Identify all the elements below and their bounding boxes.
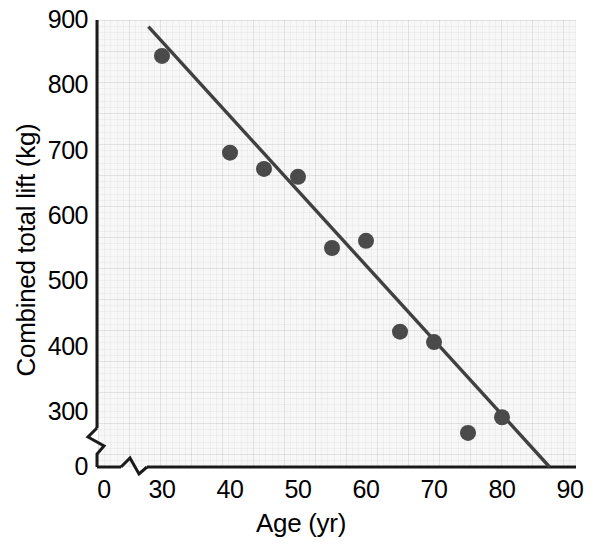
y-axis-title: Combined total lift (kg): [11, 124, 42, 377]
scatter-point: [358, 233, 374, 249]
x-axis-title: Age (yr): [0, 508, 602, 539]
scatter-point: [324, 240, 340, 256]
scatter-points-group: [154, 48, 510, 441]
x-axis-break-symbol: [121, 458, 147, 474]
chart-canvas: [0, 0, 602, 545]
y-axis-title-wrapper: Combined total lift (kg): [9, 10, 43, 490]
y-axis-break-symbol: [88, 428, 104, 467]
scatter-point: [392, 324, 408, 340]
scatter-point: [154, 48, 170, 64]
scatter-point: [290, 169, 306, 185]
x-tick-label: 0: [74, 477, 134, 502]
scatter-point: [494, 409, 510, 425]
x-tick-label: 70: [404, 477, 464, 502]
x-axis-tick-labels: 030405060708090: [0, 477, 602, 509]
regression-trend-line: [148, 27, 549, 467]
scatter-point: [426, 334, 442, 350]
x-tick-label: 80: [472, 477, 532, 502]
scatter-point: [256, 161, 272, 177]
scatter-point: [460, 425, 476, 441]
scatter-point: [222, 145, 238, 161]
scatter-plot-figure: 0300400500600700800900 030405060708090 A…: [0, 0, 602, 545]
x-tick-label: 50: [268, 477, 328, 502]
x-tick-label: 60: [336, 477, 396, 502]
x-tick-label: 90: [540, 477, 600, 502]
x-tick-label: 30: [132, 477, 192, 502]
x-tick-label: 40: [200, 477, 260, 502]
